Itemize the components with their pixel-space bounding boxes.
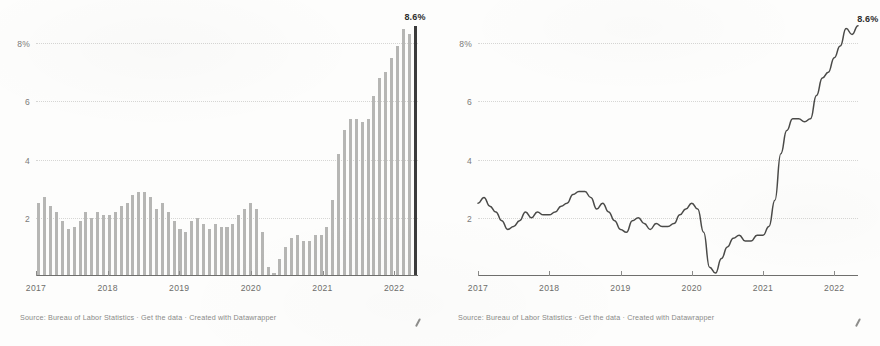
bar [102,215,105,276]
bar [184,232,187,276]
bar [90,218,93,276]
bar [126,203,129,276]
x-tick-label: 2020 [682,283,702,293]
bar [325,227,328,276]
x-tick-label: 2021 [753,283,773,293]
bar-chart-footer: Source: Bureau of Labor Statistics · Get… [20,313,276,322]
bar [73,227,76,276]
bar [120,206,123,276]
y-tick-label: 2 [25,214,30,224]
bar [284,247,287,276]
x-tick-mark [394,271,395,276]
bar [173,221,176,276]
gridline: 8% [36,43,418,44]
bar [114,212,117,276]
bar [220,227,223,276]
bar [131,195,134,277]
bar [355,119,358,276]
bar [367,119,370,276]
bar [67,229,70,276]
x-tick-mark [323,271,324,276]
y-tick-label: 4 [25,156,30,166]
bar [137,192,140,276]
bar [384,72,387,276]
x-tick-mark [621,271,622,276]
bar [314,235,317,276]
scan-artifact-mark [416,318,424,328]
bar [202,224,205,276]
bar [402,29,405,276]
bar [214,224,217,276]
bar [37,203,40,276]
bar [320,235,323,276]
x-tick-label: 2022 [824,283,844,293]
x-tick-mark [108,271,109,276]
bar [61,221,64,276]
x-tick-label: 2020 [241,283,261,293]
bar [208,229,211,276]
bar [414,26,417,276]
bar [178,229,181,276]
x-tick-label: 2017 [26,283,46,293]
bar [161,203,164,276]
x-tick-label: 2017 [468,283,488,293]
bar [308,241,311,276]
line-chart-path [478,26,858,273]
bar-chart-value-label: 8.6% [404,12,425,22]
bar [390,58,393,276]
x-tick-label: 2019 [169,283,189,293]
x-tick-mark [692,271,693,276]
bar [278,259,281,276]
bar [408,34,411,276]
bar [378,78,381,276]
bar [290,238,293,276]
y-tick-label: 6 [25,97,30,107]
bar [349,119,352,276]
bar [108,215,111,276]
bar [296,235,299,276]
line-chart-value-label: 8.6% [857,14,878,24]
x-tick-mark [549,271,550,276]
x-tick-mark [36,271,37,276]
x-tick-label: 2019 [610,283,630,293]
x-tick-label: 2022 [384,283,404,293]
y-tick-label: 6 [467,97,472,107]
bar [237,215,240,276]
bar [167,212,170,276]
bar-chart-x-axis [36,275,418,276]
bar [243,209,246,276]
bar [79,221,82,276]
bar [372,96,375,276]
bar [43,197,46,276]
x-tick-mark [179,271,180,276]
bar [361,122,364,276]
bar [337,154,340,276]
gridline: 6 [36,101,418,102]
x-tick-label: 2018 [539,283,559,293]
bar [196,218,199,276]
scan-artifact-mark [856,318,864,328]
bar [96,212,99,276]
bar [155,209,158,276]
y-tick-label: 8% [459,39,472,49]
bar-chart-panel: 2468% 201720182019202020212022 8.6% Sour… [0,0,440,346]
x-tick-mark [251,271,252,276]
bar [249,203,252,276]
bar [149,197,152,276]
line-chart-series [478,14,858,276]
bar [261,232,264,276]
bar [255,209,258,276]
line-chart-panel: 2468% 201720182019202020212022 8.6% Sour… [440,0,880,346]
bar [49,206,52,276]
line-chart-plot: 2468% 201720182019202020212022 8.6% [478,14,858,276]
bar-chart-plot: 2468% 201720182019202020212022 8.6% [36,14,418,276]
x-tick-label: 2021 [312,283,332,293]
bar [302,241,305,276]
y-tick-label: 4 [467,156,472,166]
bar [396,46,399,276]
line-chart-footer: Source: Bureau of Labor Statistics · Get… [458,313,714,322]
bar [190,221,193,276]
bar [225,227,228,276]
bar [331,200,334,276]
bar [143,192,146,276]
